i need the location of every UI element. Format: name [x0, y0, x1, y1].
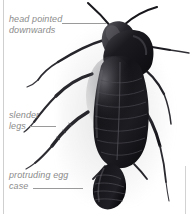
leader-line-head [62, 23, 107, 24]
annotation-protruding-egg-case: protruding egg case [9, 170, 68, 191]
cockroach-annotated-figure: head pointed downwards slender legs prot… [0, 0, 191, 214]
annotation-slender-legs: slender legs [9, 110, 39, 131]
annotation-head-pointed-downwards: head pointed downwards [9, 14, 62, 35]
